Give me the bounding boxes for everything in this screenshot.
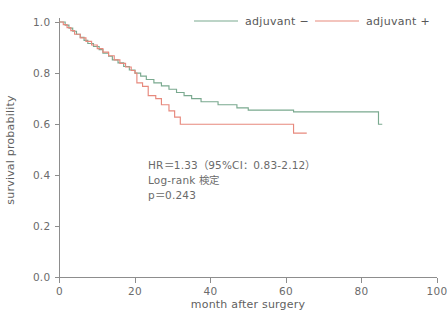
x-tick-label: 40 — [204, 285, 218, 297]
km-curve-adjuvant-plus — [60, 22, 307, 133]
y-tick-label: 1.0 — [33, 16, 51, 28]
statistics-annotation: HR＝1.33（95%CI：0.83-2.12） Log-rank 検定 p＝0… — [148, 159, 316, 201]
plot-axes — [60, 18, 438, 278]
x-tick-label: 100 — [427, 285, 447, 297]
y-tick-label: 0.0 — [33, 271, 51, 283]
x-tick-label: 20 — [128, 285, 142, 297]
survival-plot-svg: adjuvant − adjuvant + 0.00.20.40.60.81.0… — [0, 0, 447, 320]
legend-label-adjuvant-plus: adjuvant + — [366, 15, 430, 28]
x-tick-label: 60 — [279, 285, 293, 297]
y-tick-label: 0.4 — [33, 169, 51, 181]
legend-label-adjuvant-minus: adjuvant − — [245, 15, 309, 28]
kaplan-meier-figure: adjuvant − adjuvant + 0.00.20.40.60.81.0… — [0, 0, 447, 320]
survival-curves — [60, 22, 383, 133]
y-tick-label: 0.6 — [33, 118, 51, 130]
y-tick-label: 0.2 — [33, 220, 51, 232]
y-tick-label: 0.8 — [33, 67, 51, 79]
x-axis-title: month after surgery — [191, 298, 306, 311]
annotation-p-value: p＝0.243 — [148, 189, 196, 201]
x-tick-label: 0 — [56, 285, 63, 297]
annotation-hazard-ratio: HR＝1.33（95%CI：0.83-2.12） — [148, 159, 316, 171]
y-axis-title: survival probability — [4, 95, 17, 205]
annotation-logrank-test: Log-rank 検定 — [148, 174, 220, 186]
chart-legend: adjuvant − adjuvant + — [194, 15, 430, 28]
x-tick-label: 80 — [355, 285, 369, 297]
y-axis-ticks: 0.00.20.40.60.81.0 — [33, 16, 60, 284]
km-curve-adjuvant-minus — [60, 22, 383, 124]
x-axis-ticks: 020406080100 — [56, 278, 447, 297]
